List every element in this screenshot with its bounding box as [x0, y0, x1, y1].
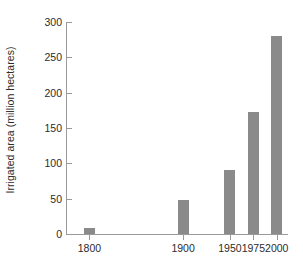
y-tick-label: 300	[26, 17, 62, 28]
x-tick-label: 2000	[247, 243, 303, 254]
y-tick-label-wrap: 150	[22, 128, 62, 129]
y-tick-mark	[67, 163, 72, 164]
y-tick-label-wrap: 200	[22, 93, 62, 94]
x-tick-mark	[183, 235, 184, 240]
bar-2000	[271, 36, 282, 234]
x-axis-line	[66, 234, 288, 235]
x-tick-mark	[277, 235, 278, 240]
y-tick-mark	[67, 199, 72, 200]
bar-chart: Irrigated area (million hectares) 050100…	[0, 0, 303, 269]
y-tick-label-wrap: 50	[22, 199, 62, 200]
y-tick-label-wrap: 300	[22, 22, 62, 23]
y-tick-mark	[67, 128, 72, 129]
bar-1900	[178, 200, 189, 234]
y-tick-label-wrap: 100	[22, 163, 62, 164]
y-tick-mark	[67, 57, 72, 58]
y-tick-label: 150	[26, 123, 62, 134]
y-axis-title: Irrigated area (million hectares)	[0, 0, 20, 240]
bar-1800	[84, 228, 95, 234]
x-tick-mark	[253, 235, 254, 240]
bar-1975	[248, 112, 259, 234]
y-tick-label: 100	[26, 158, 62, 169]
y-tick-mark	[67, 93, 72, 94]
y-axis-title-text: Irrigated area (million hectares)	[4, 47, 16, 194]
x-tick-label: 1800	[59, 243, 119, 254]
y-tick-label: 50	[26, 194, 62, 205]
y-tick-mark	[67, 22, 72, 23]
x-tick-mark	[230, 235, 231, 240]
y-tick-mark	[67, 234, 72, 235]
y-tick-label-wrap: 0	[22, 234, 62, 235]
bar-1950	[224, 170, 235, 234]
y-tick-label: 250	[26, 52, 62, 63]
x-tick-mark	[89, 235, 90, 240]
y-tick-label-wrap: 250	[22, 57, 62, 58]
y-tick-label: 200	[26, 88, 62, 99]
y-tick-label: 0	[26, 229, 62, 240]
